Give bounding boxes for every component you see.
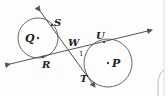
center-dot-q — [37, 37, 39, 39]
label-q: Q — [25, 32, 35, 45]
center-dot-p — [107, 62, 109, 64]
point-u — [103, 41, 105, 43]
label-angle-1: 1 — [79, 50, 83, 58]
diagram-svg: Q P S R U T W 1 — [0, 0, 168, 96]
label-p: P — [111, 57, 121, 70]
label-u: U — [96, 30, 106, 41]
label-r: R — [41, 59, 50, 70]
label-s: S — [54, 17, 61, 28]
label-w: W — [68, 37, 81, 48]
label-t: T — [80, 73, 89, 84]
point-r — [42, 56, 44, 58]
page-edge-curl — [158, 70, 164, 96]
geometry-diagram: Q P S R U T W 1 — [0, 0, 168, 96]
point-s — [51, 24, 53, 26]
